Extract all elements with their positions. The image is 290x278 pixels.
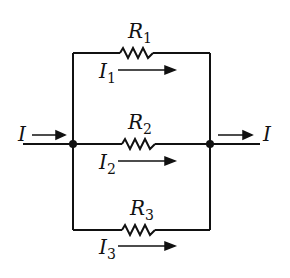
circuit-diagram: I I R1 I1 R2 I2 R3 I3 [0,0,290,278]
current-i1-label: I1 [98,59,116,86]
resistor-r1-symbol [120,48,153,58]
output-current-label: I [262,122,272,146]
junction-node-left [69,140,77,148]
resistor-r2-label: R2 [127,110,152,137]
resistor-r3-symbol [122,225,155,235]
current-i3-label: I3 [98,235,116,262]
resistor-r3-label: R3 [129,196,154,223]
input-current-label: I [17,122,27,146]
junction-node-right [206,140,214,148]
resistor-r2-symbol [122,139,155,149]
circuit-svg: I I R1 I1 R2 I2 R3 I3 [0,0,290,278]
current-i2-label: I2 [98,150,116,177]
resistor-r1-label: R1 [127,19,152,46]
